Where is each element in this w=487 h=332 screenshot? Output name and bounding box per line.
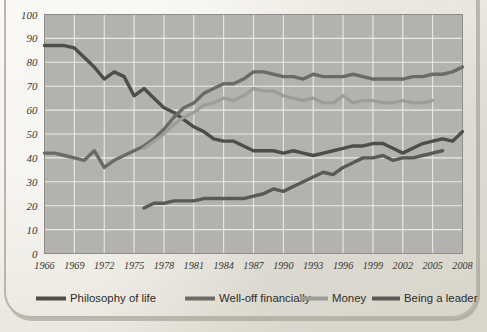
y-axis-tick-label: 40 xyxy=(27,152,39,164)
x-axis-tick-label: 1984 xyxy=(213,260,233,271)
x-axis-tick-label: 1981 xyxy=(184,260,204,271)
x-axis-tick-label: 1972 xyxy=(94,260,114,271)
x-axis-tick-label: 1978 xyxy=(154,260,174,271)
legend-label: Being a leader xyxy=(404,292,478,304)
x-axis-tick-label: 1975 xyxy=(124,260,144,271)
y-axis-tick-label: 80 xyxy=(27,56,39,68)
y-axis-tick-label: 100 xyxy=(21,9,38,21)
legend-item-philosophy-of-life: Philosophy of life xyxy=(36,292,156,304)
y-axis-tick-label: 10 xyxy=(27,224,39,236)
x-axis-tick-label: 1999 xyxy=(363,260,383,271)
y-axis-tick-label: 20 xyxy=(27,200,39,212)
x-axis-labels: 1966196919721975197819811984198719901993… xyxy=(34,260,472,271)
x-axis-tick-label: 2005 xyxy=(422,260,442,271)
y-axis-tick-label: 0 xyxy=(32,248,38,260)
legend-item-well-off-financially: Well-off financially xyxy=(185,292,311,304)
x-axis-tick-label: 2008 xyxy=(452,260,472,271)
x-axis-tick-label: 1996 xyxy=(333,260,354,271)
x-axis-tick-label: 1966 xyxy=(34,260,55,271)
line-chart: 1009080706050403020100 19661969197219751… xyxy=(0,0,487,332)
legend-label: Well-off financially xyxy=(219,292,311,304)
y-axis-tick-label: 90 xyxy=(27,32,39,44)
x-axis-tick-label: 1993 xyxy=(303,260,323,271)
legend-label: Money xyxy=(332,292,366,304)
y-axis-tick-label: 50 xyxy=(27,128,39,140)
legend-label: Philosophy of life xyxy=(70,292,156,304)
plot-area xyxy=(45,15,463,254)
y-axis-tick-label: 30 xyxy=(26,176,39,188)
x-axis-tick-label: 1987 xyxy=(243,260,264,271)
y-axis-labels: 1009080706050403020100 xyxy=(21,9,38,260)
y-axis-tick-label: 60 xyxy=(27,104,39,116)
x-axis-tick-label: 2002 xyxy=(393,260,413,271)
x-axis-tick-label: 1990 xyxy=(273,260,293,271)
chart-legend: Philosophy of lifeWell-off financiallyMo… xyxy=(36,292,478,304)
x-axis-tick-label: 1969 xyxy=(64,260,84,271)
y-axis-tick-label: 70 xyxy=(27,80,39,92)
legend-item-being-a-leader: Being a leader xyxy=(372,292,478,304)
